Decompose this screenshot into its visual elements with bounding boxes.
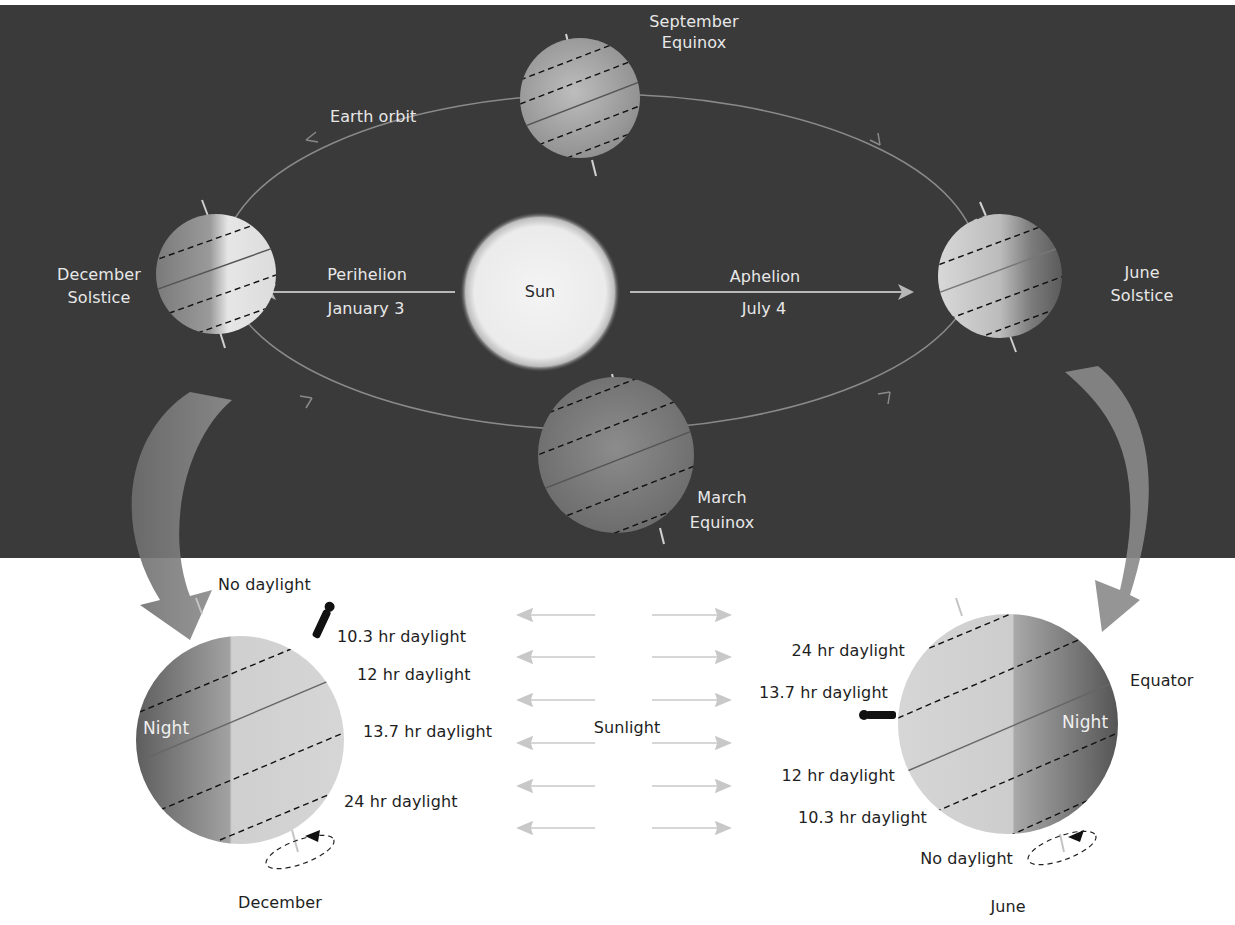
- jun-lat-10-3: 10.3 hr daylight: [798, 808, 927, 827]
- person-icon: [859, 710, 896, 720]
- seasons-diagram: September Equinox Earth orbit December S…: [0, 0, 1235, 925]
- sunlight-label: Sunlight: [594, 718, 661, 737]
- dec-lat-10-3: 10.3 hr daylight: [337, 627, 466, 646]
- perihelion-date: January 3: [328, 299, 405, 318]
- sun-label: Sun: [525, 282, 556, 301]
- june-label-line1: June: [1124, 263, 1159, 282]
- jun-lat-no-daylight: No daylight: [920, 849, 1013, 868]
- dec-night-label: Night: [143, 719, 189, 738]
- june-label-line2: Solstice: [1111, 286, 1174, 305]
- diagram-graphics: [0, 0, 1235, 925]
- dec-lat-no-daylight: No daylight: [218, 575, 311, 594]
- dec-lat-13-7: 13.7 hr daylight: [363, 722, 492, 741]
- september-label-line1: September: [649, 12, 738, 31]
- jun-lat-24: 24 hr daylight: [791, 641, 905, 660]
- aphelion-date: July 4: [742, 299, 787, 318]
- june-detail-globe: [859, 598, 1120, 872]
- december-caption: December: [238, 893, 322, 912]
- jun-lat-13-7: 13.7 hr daylight: [759, 683, 888, 702]
- aphelion-label: Aphelion: [730, 267, 801, 286]
- jun-lat-12: 12 hr daylight: [781, 766, 895, 785]
- person-icon: [311, 600, 337, 640]
- june-caption: June: [990, 897, 1025, 916]
- dec-lat-24: 24 hr daylight: [344, 792, 458, 811]
- equator-label: Equator: [1130, 671, 1194, 690]
- earth-orbit-label: Earth orbit: [330, 107, 416, 126]
- march-label-line1: March: [697, 488, 746, 507]
- dec-lat-12: 12 hr daylight: [357, 665, 471, 684]
- september-label-line2: Equinox: [662, 33, 726, 52]
- perihelion-label: Perihelion: [327, 265, 407, 284]
- december-label-line2: Solstice: [68, 288, 131, 307]
- december-label-line1: December: [57, 265, 141, 284]
- jun-night-label: Night: [1062, 713, 1108, 732]
- march-label-line2: Equinox: [690, 513, 754, 532]
